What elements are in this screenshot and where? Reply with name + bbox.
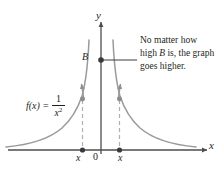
annotation-line-1: No matter how (140, 34, 220, 47)
function-name: f(x) (26, 101, 40, 111)
fraction-numerator: 1 (53, 94, 64, 105)
annotation-line-3: goes higher. (140, 60, 220, 73)
fraction: 1 x2 (52, 94, 66, 118)
curve-point-left (80, 97, 85, 102)
function-label: f(x) = 1 x2 (26, 94, 65, 118)
curve-point-right (117, 97, 122, 102)
x-tick-label-right: x (118, 153, 122, 163)
function-graph-figure: y x 0 x x B No matter how high B is, the… (0, 0, 220, 179)
x-tick-label-left: x (76, 153, 80, 163)
x-axis-point-left (80, 147, 85, 152)
graph-canvas (0, 0, 220, 179)
annotation-line-2: high B is, the graph (140, 47, 220, 60)
b-point (98, 57, 104, 63)
equals-sign: = (43, 101, 49, 111)
annotation-line-2-before: high (140, 48, 159, 58)
x-axis-label: x (209, 140, 214, 151)
denominator-exponent: 2 (59, 106, 62, 113)
b-point-label: B (82, 52, 88, 62)
callout-annotation: No matter how high B is, the graph goes … (140, 34, 220, 73)
fraction-denominator: x2 (52, 106, 66, 118)
origin-label: 0 (93, 152, 98, 162)
annotation-line-2-after: is, the graph (165, 48, 214, 58)
y-axis-label: y (96, 10, 101, 21)
